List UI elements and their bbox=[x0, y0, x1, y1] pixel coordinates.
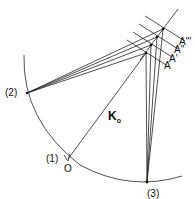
k-subscript: o bbox=[117, 117, 121, 124]
label-A-prime: A' bbox=[169, 54, 178, 64]
label-point-2: (2) bbox=[5, 88, 17, 98]
label-point-1: (1) bbox=[46, 154, 58, 164]
label-origin: O bbox=[64, 164, 72, 174]
label-point-3: (3) bbox=[147, 189, 159, 199]
k0-vector bbox=[68, 53, 146, 159]
label-k0: Ko bbox=[108, 110, 121, 124]
k-text: K bbox=[108, 109, 117, 123]
diagram-lines bbox=[0, 0, 195, 199]
ewald-construction-diagram: (2) (1) O (3) Ko A A' A" A''' bbox=[0, 0, 195, 199]
label-A-triple-prime: A''' bbox=[179, 37, 191, 47]
